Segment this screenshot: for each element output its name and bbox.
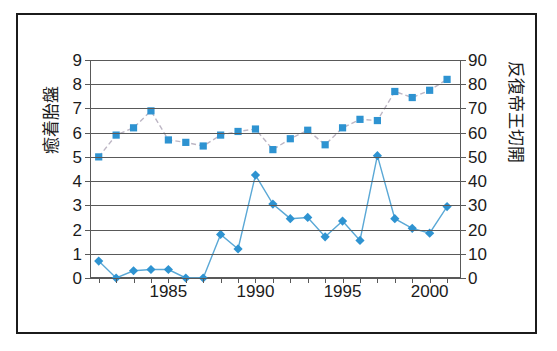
data-point [374, 117, 381, 124]
data-point [287, 135, 294, 142]
data-point [146, 265, 155, 274]
data-point [129, 266, 138, 275]
right-axis-tick-label: 60 [468, 124, 487, 141]
right-axis-ticks: 0102030405060708090 [463, 60, 497, 278]
left-axis-tick-label: 8 [73, 76, 82, 93]
chart-frame: 癒着胎盤 反復帝王切開 0123456789 01020304050607080… [16, 13, 537, 334]
right-axis-title: 反復帝王切開 [507, 47, 524, 177]
x-axis-tick-label: 2000 [411, 283, 449, 300]
data-point [443, 76, 450, 83]
left-tick-mark [85, 133, 90, 134]
left-tick-mark [85, 157, 90, 158]
right-axis-tick-label: 80 [468, 76, 487, 93]
data-point [426, 87, 433, 94]
gridline [90, 60, 461, 61]
gridline [90, 157, 461, 158]
chart-canvas: 癒着胎盤 反復帝王切開 0123456789 01020304050607080… [18, 15, 539, 336]
left-axis-tick-label: 1 [73, 245, 82, 262]
data-point [130, 124, 137, 131]
data-point [200, 142, 207, 149]
gridline [90, 230, 461, 231]
data-point [390, 214, 399, 223]
left-axis-tick-label: 5 [73, 148, 82, 165]
data-point [322, 141, 329, 148]
right-axis-tick-label: 40 [468, 173, 487, 190]
right-tick-mark [461, 84, 466, 85]
right-axis-tick-label: 10 [468, 245, 487, 262]
gridline [90, 133, 461, 134]
left-axis-tick-label: 2 [73, 221, 82, 238]
data-point [251, 170, 260, 179]
left-tick-mark [85, 84, 90, 85]
left-axis-tick-label: 6 [73, 124, 82, 141]
left-tick-mark [85, 278, 90, 279]
right-tick-mark [461, 230, 466, 231]
left-axis-tick-label: 9 [73, 52, 82, 69]
left-axis-ticks: 0123456789 [60, 60, 86, 278]
right-tick-mark [461, 60, 466, 61]
right-axis-tick-label: 20 [468, 221, 487, 238]
right-axis-tick-label: 50 [468, 148, 487, 165]
right-axis-tick-label: 0 [468, 270, 477, 287]
left-axis-tick-label: 0 [73, 270, 82, 287]
gridline [90, 278, 461, 279]
right-tick-mark [461, 278, 466, 279]
right-tick-mark [461, 108, 466, 109]
data-point [164, 265, 173, 274]
data-point [391, 88, 398, 95]
series-layer [90, 60, 461, 278]
data-point [252, 125, 259, 132]
data-point [182, 139, 189, 146]
left-axis-tick-label: 4 [73, 173, 82, 190]
left-tick-mark [85, 60, 90, 61]
left-axis-title: 癒着胎盤 [43, 55, 60, 185]
x-axis-labels: 1985199019952000 [90, 283, 461, 307]
left-tick-mark [85, 108, 90, 109]
right-axis-tick-label: 90 [468, 52, 487, 69]
left-tick-mark [85, 205, 90, 206]
right-tick-mark [461, 157, 466, 158]
left-tick-mark [85, 230, 90, 231]
left-axis-tick-label: 7 [73, 100, 82, 117]
right-tick-mark [461, 133, 466, 134]
right-tick-mark [461, 254, 466, 255]
left-axis-tick-label: 3 [73, 197, 82, 214]
right-axis-tick-label: 70 [468, 100, 487, 117]
right-tick-mark [461, 205, 466, 206]
data-point [373, 151, 382, 160]
right-tick-mark [461, 181, 466, 182]
right-axis-tick-label: 30 [468, 197, 487, 214]
data-point [234, 128, 241, 135]
x-axis-tick-label: 1990 [237, 283, 275, 300]
data-point [339, 124, 346, 131]
gridline [90, 181, 461, 182]
data-point [408, 224, 417, 233]
gridline [90, 254, 461, 255]
data-point [269, 146, 276, 153]
gridline [90, 205, 461, 206]
data-point [442, 202, 451, 211]
plot-area [90, 60, 461, 278]
data-point [409, 94, 416, 101]
data-point [356, 116, 363, 123]
x-axis-tick-label: 1995 [324, 283, 362, 300]
left-tick-mark [85, 254, 90, 255]
x-axis-tick-label: 1985 [149, 283, 187, 300]
left-tick-mark [85, 181, 90, 182]
gridline [90, 84, 461, 85]
data-point [165, 136, 172, 143]
gridline [90, 108, 461, 109]
